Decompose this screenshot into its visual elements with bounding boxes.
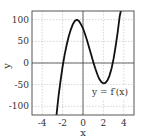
x-tick-label: -2 xyxy=(58,118,67,128)
y-axis-label: y xyxy=(1,63,12,70)
x-axis-label: x xyxy=(80,127,86,138)
x-tick-label: 4 xyxy=(121,118,127,128)
y-tick-label: 100 xyxy=(12,15,29,25)
x-tick-label: -4 xyxy=(38,118,47,128)
curve-label: y = f′(x) xyxy=(91,87,128,97)
y-tick-labels: 100500-50-100 xyxy=(9,15,30,112)
y-tick-label: 0 xyxy=(23,58,29,68)
y-tick-label: -100 xyxy=(9,101,29,111)
y-tick-label: 50 xyxy=(18,36,30,46)
chart-svg: -4-2024 100500-50-100 x y y = f′(x) xyxy=(0,0,143,140)
y-tick-label: -50 xyxy=(15,80,30,90)
x-tick-label: 2 xyxy=(101,118,107,128)
